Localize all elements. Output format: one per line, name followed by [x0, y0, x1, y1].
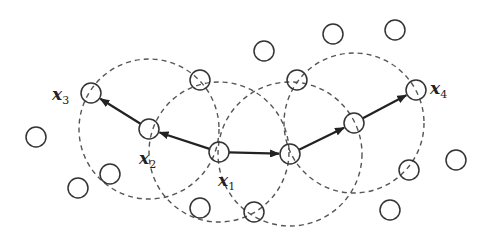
diagram-canvas	[0, 0, 488, 241]
node-circle	[385, 20, 405, 40]
arrow	[363, 95, 406, 118]
node-circle	[139, 119, 159, 139]
node-circle	[244, 202, 264, 222]
neighborhood-circles	[79, 53, 424, 226]
node-label-x2: x2	[139, 150, 156, 170]
node-circle	[380, 200, 400, 220]
node-circle	[280, 144, 300, 164]
node-circle	[406, 80, 426, 100]
node-circle	[100, 164, 120, 184]
node-circle	[446, 150, 466, 170]
node-circle	[190, 198, 210, 218]
arrow	[159, 132, 209, 148]
node-circle	[323, 24, 343, 44]
nodes	[26, 20, 466, 222]
arrow	[100, 99, 140, 124]
node-circle	[81, 83, 101, 103]
node-circle	[254, 41, 274, 61]
arrow	[229, 152, 279, 153]
node-label-x4: x4	[430, 80, 447, 100]
neighborhood-graph-diagram: x3x2x1x4	[0, 0, 488, 241]
node-circle	[344, 113, 364, 133]
node-circle	[399, 160, 419, 180]
node-circle	[209, 142, 229, 162]
arrow	[299, 128, 344, 150]
node-label-x1: x1	[218, 172, 235, 192]
node-circle	[190, 70, 210, 90]
node-label-x3: x3	[52, 86, 69, 106]
node-circle	[287, 70, 307, 90]
node-circle	[26, 127, 46, 147]
node-circle	[68, 178, 88, 198]
